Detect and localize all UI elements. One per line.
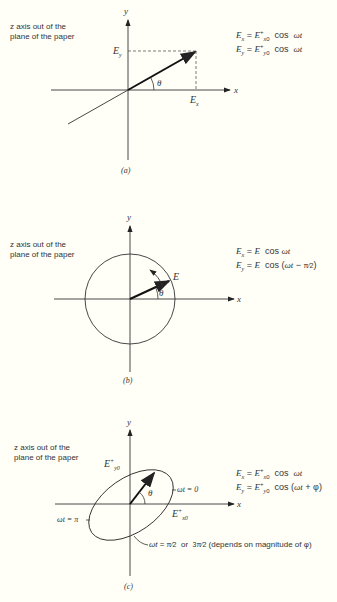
- x-axis-label: x: [237, 499, 241, 509]
- panel-c: [55, 430, 234, 576]
- ex-label: Ex: [190, 95, 199, 109]
- theta-label: θ: [148, 488, 152, 498]
- caption-a: (a): [121, 166, 130, 175]
- y-axis-label: y: [127, 417, 131, 427]
- panel-b: [54, 226, 234, 372]
- z-axis-note-line1: z axis out of the: [10, 240, 66, 250]
- ex0-label: E+x0: [172, 506, 188, 523]
- x-axis-label: x: [237, 294, 241, 304]
- z-axis-note-line2: plane of the paper: [10, 250, 75, 260]
- panel-a: [51, 20, 230, 160]
- theta-arc: [156, 288, 158, 299]
- ey0-label: E+y0: [104, 456, 120, 473]
- z-axis-note-line1: z axis out of the: [14, 443, 70, 453]
- wt0-label: ωt = 0: [177, 485, 198, 495]
- leader-wthalf: [134, 536, 148, 545]
- equation-ey-a: Ey = E+y0 cos ωt: [236, 40, 302, 59]
- x-axis-label: x: [234, 85, 238, 95]
- equation-ey-b: Ey = E cos (ωt − π⁄2): [236, 259, 316, 275]
- z-axis-note-line1: z axis out of the: [10, 22, 66, 32]
- z-axis-note-line2: plane of the paper: [14, 453, 79, 463]
- ey-label: Ey: [113, 46, 122, 60]
- wthalf-label: ωt = π⁄2 or 3π⁄2 (depends on magnitude o…: [149, 540, 312, 550]
- equation-ey-c: Ey = E+y0 cos (ωt + φ): [236, 478, 322, 497]
- theta-arc: [151, 78, 154, 90]
- theta-label: θ: [157, 78, 161, 88]
- e-vector-arrow: [128, 52, 195, 90]
- wtpi-label: ωt = π: [57, 515, 78, 525]
- theta-label: θ: [159, 288, 163, 298]
- caption-c: (c): [124, 582, 133, 591]
- y-axis-label: y: [127, 212, 131, 222]
- diagram-canvas: [0, 0, 337, 602]
- e-label: E: [173, 272, 179, 282]
- z-axis-line: [68, 90, 128, 124]
- theta-arc: [139, 492, 145, 504]
- y-axis-label: y: [124, 6, 128, 16]
- caption-b: (b): [123, 376, 132, 385]
- z-axis-note-line2: plane of the paper: [10, 32, 75, 42]
